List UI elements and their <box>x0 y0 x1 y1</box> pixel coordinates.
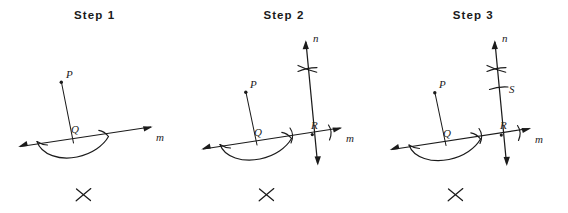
x-mark-step-2 <box>260 189 275 201</box>
x-mark-step-1-wrap <box>0 0 189 213</box>
x-mark-step-1 <box>76 189 91 201</box>
panel-step-3: Step 3 m P Q <box>379 0 568 213</box>
construction-figure: Step 1 m P Q <box>0 0 568 213</box>
x-mark-step-2-wrap <box>189 0 378 213</box>
panel-step-1: Step 1 m P Q <box>0 0 189 213</box>
x-mark-step-3-wrap <box>379 0 568 213</box>
panel-row: Step 1 m P Q <box>0 0 568 213</box>
panel-step-2: Step 2 m P Q <box>189 0 378 213</box>
x-mark-step-3 <box>448 189 463 201</box>
